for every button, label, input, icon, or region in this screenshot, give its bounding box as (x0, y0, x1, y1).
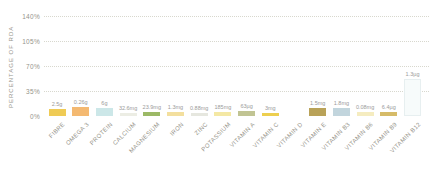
bar-value-label-fibre: 2.5g (52, 101, 63, 108)
bar-zinc (191, 113, 208, 116)
gridline (44, 66, 429, 67)
bar-vitamin-a (238, 111, 255, 116)
bar-value-label-zinc: 0.88mg (190, 105, 208, 112)
y-tick-label: 70% (0, 63, 40, 70)
bar-value-label-iron: 1.3mg (168, 104, 183, 111)
bar-vitamin-b9 (380, 112, 397, 116)
bar-vitamin-b3 (333, 108, 350, 116)
bar-value-label-vitamin-b12: 1.3µg (406, 71, 420, 78)
bar-magnesium (143, 112, 160, 116)
bar-value-label-potassium: 185mg (214, 104, 231, 111)
bar-vitamin-b12 (404, 79, 421, 116)
bar-value-label-calcium: 32.6mg (119, 105, 137, 112)
bar-protein (96, 108, 113, 116)
x-axis-label-zinc: ZINC (193, 121, 209, 137)
x-axis-label-fibre: FIBRE (48, 121, 67, 140)
bar-value-label-vitamin-a: 63µg (240, 103, 252, 110)
bar-value-label-vitamin-b3: 1.8mg (334, 100, 349, 107)
rda-bar-chart: PERCENTAGE OF RDA 0%35%70%105%140%2.5gFI… (0, 0, 433, 171)
bar-iron (167, 112, 184, 116)
bar-potassium (214, 112, 231, 116)
gridline (44, 41, 429, 42)
bar-value-label-protein: 6g (101, 100, 107, 107)
plot-area: 0%35%70%105%140%2.5gFIBRE0.26gOMEGA 36gP… (0, 0, 433, 171)
x-axis-label-protein: PROTEIN (89, 121, 115, 147)
y-tick-label: 105% (0, 38, 40, 45)
bar-value-label-magnesium: 23.9mg (143, 104, 161, 111)
y-tick-label: 35% (0, 88, 40, 95)
bar-vitamin-c (262, 113, 279, 116)
y-tick-label: 140% (0, 13, 40, 20)
gridline (44, 91, 429, 92)
bar-vitamin-e (309, 108, 326, 116)
bar-omega-3 (72, 107, 89, 116)
x-axis-label-omega-3: OMEGA 3 (65, 121, 91, 147)
x-axis-label-iron: IRON (169, 121, 186, 138)
gridline (44, 16, 429, 17)
bar-value-label-vitamin-c: 3mg (265, 105, 276, 112)
y-tick-label: 0% (0, 113, 40, 120)
bar-fibre (49, 109, 66, 116)
bar-value-label-vitamin-b6: 0.08mg (356, 104, 374, 111)
bar-vitamin-b6 (357, 112, 374, 116)
bar-value-label-vitamin-e: 1.5mg (310, 100, 325, 107)
bar-value-label-omega-3: 0.26g (74, 99, 88, 106)
bar-value-label-vitamin-b9: 6.4µg (382, 104, 396, 111)
bar-calcium (120, 113, 137, 116)
